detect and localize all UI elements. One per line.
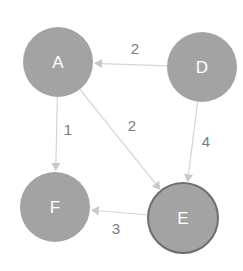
node-A[interactable]: A — [23, 27, 93, 97]
arrowhead-icon — [152, 181, 161, 190]
edge-D-E — [184, 102, 198, 183]
edge-weight-label: 3 — [112, 220, 120, 237]
edge-line — [80, 89, 156, 183]
edge-line — [102, 64, 167, 66]
edge-line — [99, 211, 148, 215]
edge-weight-label: 2 — [131, 40, 139, 57]
edge-weight-label: 2 — [128, 117, 136, 134]
edge-A-E — [80, 89, 161, 190]
node-E[interactable]: E — [148, 183, 218, 253]
edge-weight-label: 4 — [202, 133, 210, 150]
edge-line — [56, 97, 57, 163]
arrowhead-icon — [51, 163, 60, 171]
node-label: F — [50, 198, 60, 217]
arrowhead-icon — [91, 206, 99, 215]
node-label: A — [52, 53, 64, 72]
edge-line — [188, 102, 197, 175]
node-D[interactable]: D — [167, 32, 237, 102]
node-label: D — [196, 58, 208, 77]
graph-diagram: ADFE 21243 — [0, 0, 243, 271]
edge-E-F — [91, 206, 148, 215]
edge-weight-label: 1 — [64, 121, 72, 138]
edge-D-A — [94, 59, 167, 68]
arrowhead-icon — [94, 59, 102, 68]
node-F[interactable]: F — [20, 172, 90, 242]
arrowhead-icon — [184, 174, 193, 182]
edge-A-F — [51, 97, 60, 171]
node-label: E — [177, 209, 188, 228]
